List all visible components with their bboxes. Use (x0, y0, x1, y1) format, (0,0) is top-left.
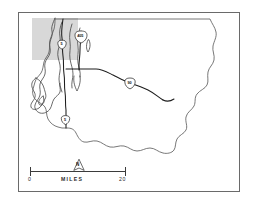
scale-bar-units-label: MILES (61, 176, 83, 182)
i-5-north-shield-label: 5 (61, 42, 63, 46)
study-area-highlight (32, 18, 78, 60)
scale-bar-line (30, 171, 126, 172)
scale-bar-min-label: 0 (28, 176, 31, 182)
map-figure: 5 405 90 5 N 0 MILES 20 (0, 0, 255, 205)
i-90-shield-label: 90 (128, 81, 132, 85)
scale-bar-max-label: 20 (119, 176, 126, 182)
i-5-south-shield-label: 5 (64, 118, 66, 122)
scale-bar-tick-max (125, 167, 126, 176)
i-405-shield-label: 405 (77, 34, 83, 38)
north-arrow-label: N (76, 162, 79, 167)
scale-bar-tick-min (30, 167, 31, 176)
scale-bar: N 0 MILES 20 (30, 158, 130, 188)
